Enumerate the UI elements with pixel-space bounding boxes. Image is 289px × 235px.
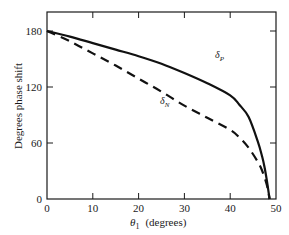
series-label-delta-p: δP <box>215 49 225 63</box>
series-line-delta-p <box>47 31 270 199</box>
series-lines <box>47 31 270 199</box>
y-axis-ticks: 060120180 <box>26 25 277 205</box>
y-tick-label: 60 <box>31 137 43 149</box>
y-tick-label: 180 <box>26 25 43 37</box>
y-tick-label: 120 <box>26 81 43 93</box>
x-tick-label: 40 <box>225 202 237 214</box>
phase-shift-chart: 01020304050 060120180 Degrees phase shif… <box>0 0 289 235</box>
series-label-delta-n: δN <box>160 95 170 109</box>
x-tick-label: 50 <box>271 202 283 214</box>
x-tick-label: 0 <box>44 202 50 214</box>
y-axis-title: Degrees phase shift <box>12 63 24 149</box>
x-axis-title: θ1(degrees) <box>130 216 187 231</box>
x-tick-label: 10 <box>87 202 99 214</box>
series-line-delta-n <box>47 31 270 199</box>
x-tick-label: 30 <box>179 202 191 214</box>
x-tick-label: 20 <box>133 202 145 214</box>
y-tick-label: 0 <box>37 193 43 205</box>
